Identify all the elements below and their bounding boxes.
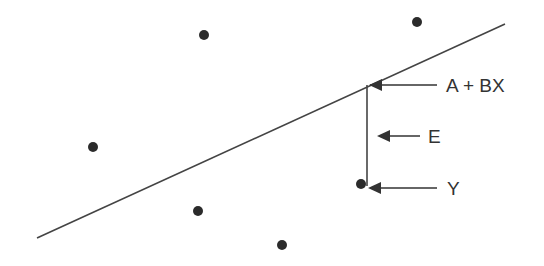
data-point <box>193 206 203 216</box>
data-point <box>88 142 98 152</box>
error-label: E <box>428 126 441 147</box>
data-point <box>199 30 209 40</box>
fitted-label: A + BX <box>446 75 505 96</box>
data-points <box>88 17 422 250</box>
fitted-arrowhead-icon <box>369 79 382 91</box>
observed-label: Y <box>447 178 460 199</box>
error-arrowhead-icon <box>377 130 390 142</box>
diagram-svg: A + BX E Y <box>0 0 544 266</box>
data-point <box>277 240 287 250</box>
data-point <box>412 17 422 27</box>
observed-arrowhead-icon <box>368 182 381 194</box>
observed-point <box>356 179 366 189</box>
regression-diagram: A + BX E Y <box>0 0 544 266</box>
